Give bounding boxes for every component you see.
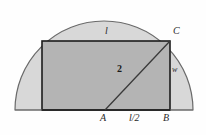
label-half-length: l/2 — [129, 113, 140, 123]
label-vertex-a: A — [100, 113, 106, 123]
label-diagonal-length: 2 — [117, 64, 122, 74]
rectangle-shape — [42, 41, 170, 110]
label-width: w — [172, 66, 177, 74]
label-vertex-b: B — [163, 113, 169, 123]
label-vertex-c: C — [173, 26, 180, 36]
label-top-length: l — [105, 26, 108, 36]
geometry-figure: l C w 2 A l/2 B — [0, 0, 206, 135]
